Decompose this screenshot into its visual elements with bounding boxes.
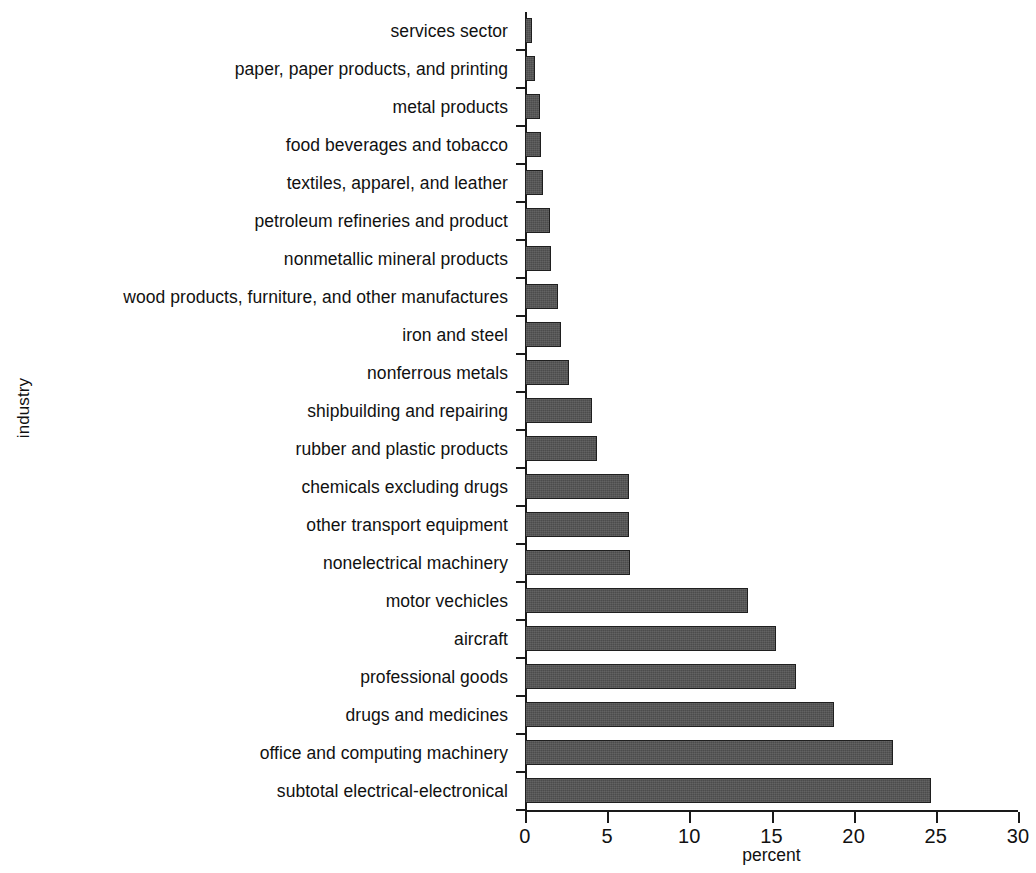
y-tick-mark (516, 695, 525, 697)
y-tick-mark (516, 315, 525, 317)
bar (525, 360, 569, 385)
bar (525, 56, 535, 81)
bar (525, 208, 550, 233)
bar (525, 398, 592, 423)
x-tick-mark (607, 812, 609, 823)
bar-row (525, 544, 1018, 582)
category-label: aircraft (454, 620, 508, 658)
category-label: other transport equipment (306, 506, 508, 544)
y-tick-mark (516, 657, 525, 659)
category-label: office and computing machinery (260, 734, 508, 772)
category-label: metal products (393, 88, 508, 126)
category-label: wood products, furniture, and other manu… (123, 278, 508, 316)
x-tick-mark (689, 812, 691, 823)
bar-row (525, 696, 1018, 734)
bar-row (525, 50, 1018, 88)
bar-row (525, 126, 1018, 164)
bar-row (525, 620, 1018, 658)
category-label: iron and steel (402, 316, 508, 354)
y-tick-mark (516, 87, 525, 89)
bar (525, 512, 629, 537)
bar-row (525, 430, 1018, 468)
bar (525, 132, 541, 157)
bar (525, 170, 543, 195)
bar (525, 550, 630, 575)
category-label: shipbuilding and repairing (307, 392, 508, 430)
bar (525, 740, 893, 765)
bar-row (525, 582, 1018, 620)
category-label: petroleum refineries and product (254, 202, 508, 240)
bar-row (525, 506, 1018, 544)
bar (525, 778, 931, 803)
bar (525, 436, 597, 461)
category-label: services sector (391, 12, 508, 50)
x-tick-mark (1018, 812, 1020, 823)
y-tick-mark (516, 49, 525, 51)
bar-row (525, 88, 1018, 126)
bar-row (525, 658, 1018, 696)
bar (525, 18, 532, 43)
y-tick-mark (516, 809, 525, 811)
y-tick-mark (516, 467, 525, 469)
category-label: textiles, apparel, and leather (287, 164, 508, 202)
bar-row (525, 734, 1018, 772)
bar-row (525, 278, 1018, 316)
y-tick-mark (516, 353, 525, 355)
y-tick-mark (516, 733, 525, 735)
bar (525, 246, 551, 271)
y-tick-mark (516, 429, 525, 431)
y-tick-mark (516, 277, 525, 279)
category-label: drugs and medicines (346, 696, 508, 734)
category-label: chemicals excluding drugs (302, 468, 509, 506)
bar-group (525, 12, 1018, 810)
bar-row (525, 354, 1018, 392)
bar-row (525, 392, 1018, 430)
bar (525, 664, 796, 689)
bar (525, 474, 629, 499)
y-tick-mark (516, 543, 525, 545)
plot-area: 051015202530 (525, 12, 1018, 810)
category-label: nonferrous metals (367, 354, 508, 392)
y-tick-mark (516, 239, 525, 241)
y-tick-mark (516, 391, 525, 393)
x-tick-mark (525, 812, 527, 823)
y-tick-mark (516, 771, 525, 773)
y-tick-mark (516, 201, 525, 203)
bar-row (525, 772, 1018, 810)
bar-row (525, 164, 1018, 202)
category-label: rubber and plastic products (296, 430, 508, 468)
bar (525, 588, 748, 613)
bar (525, 626, 776, 651)
bar-row (525, 202, 1018, 240)
bar-row (525, 240, 1018, 278)
category-label: food beverages and tobacco (286, 126, 508, 164)
bar (525, 322, 561, 347)
category-label: nonmetallic mineral products (284, 240, 508, 278)
bar-chart: industry services sectorpaper, paper pro… (0, 0, 1036, 873)
category-label-group: services sectorpaper, paper products, an… (0, 12, 518, 810)
bar-row (525, 316, 1018, 354)
bar-row (525, 468, 1018, 506)
y-tick-mark (516, 581, 525, 583)
category-label: professional goods (360, 658, 508, 696)
x-tick-mark (854, 812, 856, 823)
bar-row (525, 12, 1018, 50)
category-label: motor vechicles (386, 582, 508, 620)
y-tick-mark (516, 125, 525, 127)
x-tick-mark (936, 812, 938, 823)
bar (525, 284, 558, 309)
category-label: nonelectrical machinery (323, 544, 508, 582)
category-label: subtotal electrical-electronical (277, 772, 508, 810)
x-tick-mark (772, 812, 774, 823)
x-axis-title: percent (525, 845, 1018, 866)
bar (525, 702, 834, 727)
y-tick-mark (516, 619, 525, 621)
bar (525, 94, 540, 119)
y-tick-mark (516, 163, 525, 165)
y-tick-mark (516, 505, 525, 507)
category-label: paper, paper products, and printing (235, 50, 508, 88)
